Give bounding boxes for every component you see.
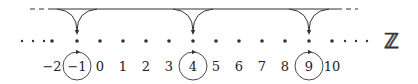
funnel-arrow-icon (57, 9, 97, 35)
integer-dot (98, 39, 102, 43)
integer-dot (50, 39, 54, 43)
integer-label: −2 (42, 59, 61, 74)
integer-label: 4 (189, 59, 197, 74)
funnel-arrow-icon (289, 9, 329, 35)
integer-label: 2 (142, 59, 150, 74)
integer-label: 7 (258, 59, 266, 74)
integer-dot (191, 39, 195, 43)
ellipsis-dot (366, 40, 368, 42)
integer-dot (283, 39, 287, 43)
integers-symbol: ℤ (384, 29, 399, 53)
integer-orbit-diagram: −2−1012345678910 ℤ (0, 0, 418, 84)
ellipsis-dot (21, 40, 23, 42)
integer-label: 8 (281, 59, 289, 74)
integer-dot (214, 39, 218, 43)
integer-dot (121, 39, 125, 43)
integer-label: 3 (165, 59, 173, 74)
integer-dot (237, 39, 241, 43)
integer-label: 1 (119, 59, 127, 74)
integer-dot (307, 39, 311, 43)
integer-dot (330, 39, 334, 43)
funnel-arrows (57, 9, 329, 35)
integer-dot (75, 39, 79, 43)
integer-label: 10 (324, 59, 341, 74)
integer-label: 0 (96, 59, 104, 74)
integer-label: 6 (235, 59, 243, 74)
integer-label: 9 (305, 59, 313, 74)
integer-dot (144, 39, 148, 43)
ellipsis-dot (355, 40, 357, 42)
ellipsis-dot (32, 40, 34, 42)
ellipsis-dot (43, 40, 45, 42)
integer-label: 5 (212, 59, 220, 74)
ellipsis-dot (344, 40, 346, 42)
integer-dot (167, 39, 171, 43)
integer-dot (260, 39, 264, 43)
funnel-arrow-icon (173, 9, 213, 35)
integer-label: −1 (67, 59, 86, 74)
integer-dots (21, 39, 368, 43)
